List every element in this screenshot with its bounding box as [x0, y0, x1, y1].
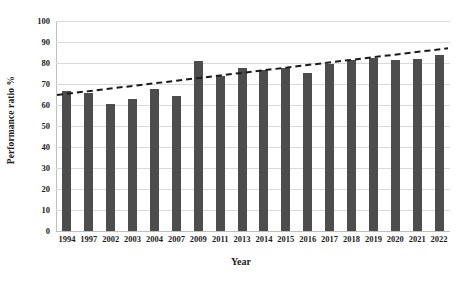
y-axis-title-label: Performance ratio %: [6, 76, 16, 164]
y-tick-label: 50: [42, 121, 51, 131]
x-tick-label: 2016: [299, 234, 316, 244]
bar[interactable]: [106, 104, 115, 231]
bar[interactable]: [303, 73, 312, 231]
plot-area: [56, 21, 450, 231]
gridline: [56, 231, 450, 232]
x-tick-label: 2013: [234, 234, 251, 244]
x-tick-label: 2017: [321, 234, 338, 244]
bar[interactable]: [84, 93, 93, 231]
y-tick-label: 80: [42, 58, 51, 68]
y-tick-label: 70: [42, 79, 51, 89]
x-tick-label: 2021: [409, 234, 426, 244]
bar[interactable]: [369, 58, 378, 231]
y-axis-tick-labels: 1009080706050403020100: [22, 21, 54, 231]
y-tick-label: 40: [42, 142, 51, 152]
x-axis-tick-labels: 1994199720022003200420072009201120132014…: [56, 234, 450, 252]
bars-layer: [56, 21, 450, 231]
bar[interactable]: [347, 60, 356, 231]
x-tick-label: 1997: [80, 234, 97, 244]
y-tick-label: 0: [46, 226, 50, 236]
x-tick-label: 2002: [102, 234, 119, 244]
bar[interactable]: [194, 61, 203, 231]
bar[interactable]: [128, 99, 137, 231]
x-tick-label: 2020: [387, 234, 404, 244]
bar[interactable]: [216, 76, 225, 231]
x-tick-label: 2015: [277, 234, 294, 244]
bar[interactable]: [62, 91, 71, 231]
bar[interactable]: [259, 70, 268, 231]
bar[interactable]: [238, 68, 247, 231]
x-tick-label: 2011: [212, 234, 229, 244]
x-tick-label: 2009: [190, 234, 207, 244]
x-tick-label: 2004: [146, 234, 163, 244]
y-tick-label: 60: [42, 100, 51, 110]
x-tick-label: 2003: [124, 234, 141, 244]
bar[interactable]: [172, 96, 181, 231]
performance-ratio-bar-chart: Performance ratio % 10090807060504030201…: [0, 0, 466, 282]
bar[interactable]: [435, 55, 444, 231]
bar[interactable]: [281, 68, 290, 231]
y-axis-title: Performance ratio %: [0, 0, 22, 240]
y-tick-label: 20: [42, 184, 51, 194]
x-tick-label: 2019: [365, 234, 382, 244]
x-axis-title: Year: [22, 256, 460, 267]
x-tick-label: 2014: [255, 234, 272, 244]
x-tick-label: 2007: [168, 234, 185, 244]
bar[interactable]: [325, 64, 334, 231]
bar[interactable]: [150, 89, 159, 231]
x-tick-label: 1994: [58, 234, 75, 244]
bar[interactable]: [413, 59, 422, 231]
y-tick-label: 10: [42, 205, 51, 215]
y-tick-label: 90: [42, 37, 51, 47]
bar[interactable]: [391, 60, 400, 231]
y-tick-label: 30: [42, 163, 51, 173]
y-tick-label: 100: [37, 16, 50, 26]
x-tick-label: 2018: [343, 234, 360, 244]
x-tick-label: 2022: [431, 234, 448, 244]
